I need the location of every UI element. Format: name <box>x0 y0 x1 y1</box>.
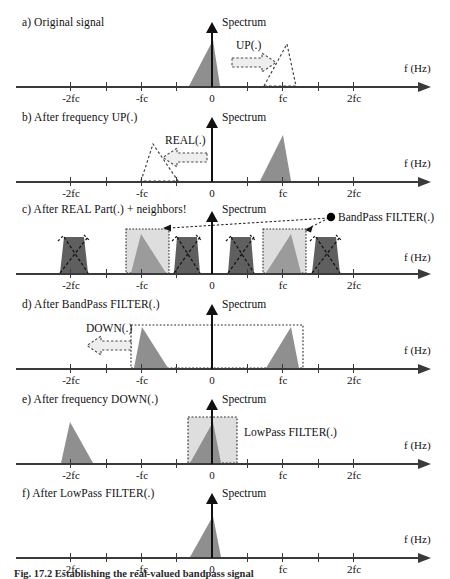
bandpass-output-negative-shape <box>134 327 168 368</box>
panel-f-tick-minus2fc <box>70 553 71 562</box>
panel-f-tick-fc <box>282 553 283 562</box>
panel-b-yaxis-arrow <box>206 117 218 128</box>
panel-f-tick-minor-3 <box>247 553 248 562</box>
panel-e-ticklabel-zero: 0 <box>209 469 215 481</box>
panel-c-ticklabel-zero: 0 <box>209 279 215 291</box>
panel-b-tick-minus2fc <box>70 177 71 186</box>
panel-b-ticklabel-fc: fc <box>279 187 288 199</box>
neighbor-image-blocked-4 <box>310 235 342 273</box>
panel-b-tick-minusfc <box>141 177 142 186</box>
panel-a-tick-minor-2 <box>176 82 177 91</box>
panel-a-tick-minor-3 <box>247 82 248 91</box>
panel-e-yaxis <box>211 407 213 464</box>
down-arrow-shape <box>87 336 131 355</box>
bandpass-callout-dot <box>327 213 335 221</box>
panel-e-xaxis <box>16 463 420 465</box>
panel-a-ticklabel-minusfc: -fc <box>136 92 148 104</box>
panel-c-tick-minor-2 <box>176 269 177 278</box>
panel-f-xaxis-arrow <box>418 553 431 563</box>
panel-c-tick-minor-3 <box>247 269 248 278</box>
panel-f-yaxis-arrow <box>206 493 218 504</box>
panel-e-tick-minusfc <box>141 459 142 468</box>
panel-c-tick-minor-4 <box>318 269 319 278</box>
panel-f-ticklabel-2fc: 2fc <box>347 563 361 575</box>
panel-a-tick-minor-4 <box>318 82 319 91</box>
panel-e-ticklabel-minusfc: -fc <box>136 469 148 481</box>
neighbor-image-blocked-1 <box>58 235 90 273</box>
panel-f-tick-minor-1 <box>106 553 107 562</box>
panel-e-ticklabel-fc: fc <box>279 469 288 481</box>
panel-b-ticklabel-minus2fc: -2fc <box>62 187 80 199</box>
panel-a-tick-fc <box>282 82 283 91</box>
panel-b-tick-minor-3 <box>247 177 248 186</box>
panel-a-tick-minusfc <box>141 82 142 91</box>
panel-a-ticklabel-fc: fc <box>279 92 288 104</box>
panel-d-tick-minor-1 <box>106 364 107 373</box>
panel-b-tick-2fc <box>353 177 354 186</box>
panel-d-ticklabel-minusfc: -fc <box>136 374 148 386</box>
panel-c-tick-minusfc <box>141 269 142 278</box>
panel-c-ticklabel-minusfc: -fc <box>136 279 148 291</box>
panel-e-xaxis-arrow <box>418 459 431 469</box>
figure-container: a) Original signal Spectrum f (Hz) UP(.)… <box>0 0 450 579</box>
panel-f-ticklabel-fc: fc <box>279 563 288 575</box>
panel-f: f) After LowPass FILTER(.) Spectrum f (H… <box>0 483 450 578</box>
panel-e-tick-minor-1 <box>106 459 107 468</box>
panel-a-tick-minus2fc <box>70 82 71 91</box>
panel-d-ticklabel-fc: fc <box>279 374 288 386</box>
panel-b-xaxis-arrow <box>418 177 431 187</box>
panel-d-tick-2fc <box>353 364 354 373</box>
panel-a-ticklabel-2fc: 2fc <box>347 92 361 104</box>
up-arrow-shape <box>232 53 276 72</box>
panel-b: b) After frequency UP(.) Spectrum f (Hz)… <box>0 107 450 202</box>
bandpass-callout-leader-left <box>165 218 329 228</box>
panel-a-xaxis <box>16 86 420 88</box>
panel-a-yaxis <box>211 30 213 87</box>
panel-c-ticklabel-fc: fc <box>279 279 288 291</box>
real-operation-label: REAL(.) <box>165 134 206 146</box>
panel-e-tick-fc <box>282 459 283 468</box>
panel-e-yaxis-arrow <box>206 399 218 410</box>
panel-c-tick-minor-1 <box>106 269 107 278</box>
panel-c-tick-fc <box>282 269 283 278</box>
panel-a-tick-2fc <box>353 82 354 91</box>
panel-c-yaxis <box>211 219 213 274</box>
panel-e-ticklabel-2fc: 2fc <box>347 469 361 481</box>
panel-d-tick-minus2fc <box>70 364 71 373</box>
panel-b-tick-minor-1 <box>106 177 107 186</box>
panel-a-ticklabel-minus2fc: -2fc <box>62 92 80 104</box>
panel-c-xaxis-arrow <box>418 269 431 279</box>
figure-caption: Fig. 17.2 Establishing the real-valued b… <box>14 568 254 579</box>
panel-a-ticklabel-zero: 0 <box>209 92 215 104</box>
panel-d-tick-minor-2 <box>176 364 177 373</box>
panel-f-tick-2fc <box>353 553 354 562</box>
panel-c-xaxis <box>16 273 420 275</box>
down-operation-label: DOWN(.) <box>86 322 132 334</box>
bandpass-output-positive-shape <box>266 327 299 368</box>
panel-b-yaxis <box>211 125 213 182</box>
panel-f-tick-minor-2 <box>176 553 177 562</box>
panel-d-ticklabel-zero: 0 <box>209 374 215 386</box>
panel-b-ticklabel-zero: 0 <box>209 187 215 199</box>
panel-b-ticklabel-2fc: 2fc <box>347 187 361 199</box>
panel-d-tick-minor-3 <box>247 364 248 373</box>
panel-d-xaxis-arrow <box>418 364 431 374</box>
panel-d-xaxis <box>16 368 420 370</box>
panel-b-tick-minor-4 <box>318 177 319 186</box>
panel-f-tick-minusfc <box>141 553 142 562</box>
neighbor-image-blocked-2 <box>172 235 202 273</box>
panel-f-yaxis <box>211 501 213 558</box>
panel-b-tick-fc <box>282 177 283 186</box>
panel-c-ticklabel-2fc: 2fc <box>347 279 361 291</box>
panel-c-ticklabel-minus2fc: -2fc <box>62 279 80 291</box>
baseband-spectrum-shape <box>189 40 220 86</box>
up-operation-label: UP(.) <box>236 39 261 51</box>
panel-a-tick-minor-1 <box>106 82 107 91</box>
panel-c-tick-minus2fc <box>70 269 71 278</box>
panel-e-tick-minor-4 <box>318 459 319 468</box>
panel-a: a) Original signal Spectrum f (Hz) UP(.)… <box>0 12 450 107</box>
neighbor-image-blocked-3 <box>226 235 256 273</box>
panel-f-xaxis <box>16 557 420 559</box>
panel-d-yaxis <box>211 312 213 369</box>
panel-a-xaxis-arrow <box>418 82 431 92</box>
